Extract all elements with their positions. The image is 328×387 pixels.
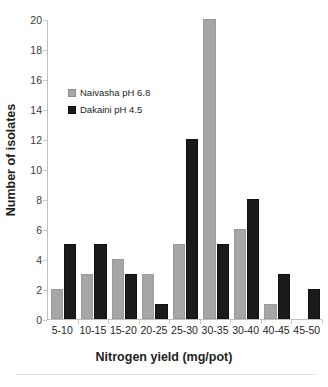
bar [234,229,246,319]
y-axis-tick-label: 4 [36,255,42,266]
y-axis-tick-label: 10 [30,165,42,176]
bar [247,199,259,319]
bar [112,259,124,319]
x-axis-tick-label: 30-40 [232,324,259,337]
y-axis-tick-label: 14 [30,105,42,116]
x-axis-tick-label: 15-20 [110,324,137,337]
y-axis-tick-mark [43,230,47,231]
legend-swatch-gray [68,89,76,97]
x-axis-tick-label: 25-30 [171,324,198,337]
bar [173,244,185,319]
y-axis-tick-mark [43,80,47,81]
bar [186,139,198,319]
bottom-divider [16,374,316,375]
bars-layer [48,20,322,319]
x-axis-tick-label: 45-50 [293,324,320,337]
y-axis-tick-mark [43,50,47,51]
bar [217,244,229,319]
bar [203,19,215,319]
x-axis-tick-label: 5-10 [52,324,73,337]
legend-item-label: Dakaini pH 4.5 [80,105,142,115]
x-axis-tick-label: 10-15 [79,324,106,337]
bar [94,244,106,319]
legend-item: Dakaini pH 4.5 [68,103,150,117]
x-axis-tick-label: 20-25 [141,324,168,337]
y-axis-tick-mark [43,320,47,321]
y-axis-tick-label: 6 [36,225,42,236]
bar [278,274,290,319]
bar [155,304,167,319]
y-axis-tick-mark [43,20,47,21]
y-axis-tick-mark [43,110,47,111]
x-axis-tick-label: 40-45 [263,324,290,337]
plot-area [47,20,322,320]
bar [142,274,154,319]
y-axis-tick-label: 16 [30,75,42,86]
bar [264,304,276,319]
legend-swatch-black [68,106,76,114]
bar [81,274,93,319]
y-axis-tick-label: 18 [30,45,42,56]
x-axis-tick-labels: 5-1010-1515-2020-2525-3030-3530-4040-454… [47,324,322,342]
legend: Naivasha pH 6.8Dakaini pH 4.5 [68,86,150,120]
bar-chart: Number of isolates 02468101214161820 Nai… [0,0,328,387]
y-axis-tick-mark [43,140,47,141]
bar [308,289,320,319]
y-axis-title-label: Number of isolates [4,104,18,217]
x-axis-tick-mark [322,320,323,324]
bar [125,274,137,319]
y-axis-tick-label: 12 [30,135,42,146]
bar [64,244,76,319]
y-axis-tick-mark [43,290,47,291]
y-axis-title: Number of isolates [0,0,22,320]
y-axis-tick-mark [43,260,47,261]
x-axis-line [47,319,322,320]
x-axis-tick-label: 30-35 [202,324,229,337]
x-axis-title: Nitrogen yield (mg/pot) [0,350,328,364]
y-axis-tick-mark [43,170,47,171]
legend-item: Naivasha pH 6.8 [68,86,150,100]
y-axis-tick-label: 8 [36,195,42,206]
y-axis-tick-label: 2 [36,285,42,296]
legend-item-label: Naivasha pH 6.8 [80,88,150,98]
bar [51,289,63,319]
y-axis-tick-label: 20 [30,15,42,26]
y-axis-tick-label: 0 [36,315,42,326]
y-axis-tick-mark [43,200,47,201]
